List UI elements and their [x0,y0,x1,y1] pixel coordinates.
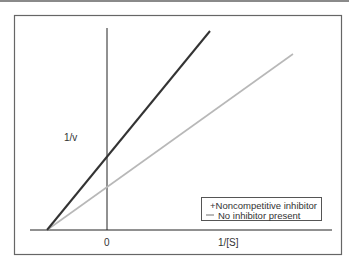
x-axis-label: 1/[S] [218,237,239,248]
lineweaver-burk-plot [0,0,349,261]
legend-item-noncompetitive: +Noncompetitive inhibitor [206,200,317,210]
y-axis-label: 1/v [64,132,77,143]
legend-label: No inhibitor present [218,210,300,221]
x-tick-zero: 0 [104,237,110,248]
legend: +Noncompetitive inhibitor No inhibitor p… [201,197,322,221]
legend-item-no-inhibitor: No inhibitor present [206,210,317,220]
legend-swatch-light [206,214,214,216]
